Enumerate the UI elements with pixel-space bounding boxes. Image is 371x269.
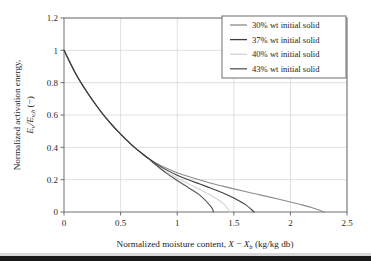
y-tick-label: 0.6	[47, 110, 59, 120]
y-tick-label: 0	[54, 207, 59, 217]
svg-text:Normalized moisture content, X: Normalized moisture content, X − Xb (kg/…	[117, 239, 294, 250]
x-tick-label: 2.5	[341, 218, 353, 228]
xlabel-units: (kg/kg db)	[253, 239, 294, 249]
x-tick-label: 1.5	[228, 218, 240, 228]
legend[interactable]: 30% wt initial solid37% wt initial solid…	[222, 16, 346, 78]
y-tick-label: 0.4	[47, 143, 59, 153]
xlabel-minus: −	[234, 239, 244, 249]
legend-label: 30% wt initial solid	[252, 20, 320, 30]
ylabel-units: (−)	[25, 96, 35, 110]
xlabel-text-main: Normalized moisture content,	[117, 239, 229, 249]
ylabel-slash-e: /E	[25, 117, 35, 127]
y-tick-label: 0.2	[47, 175, 58, 185]
activation-energy-chart: 00.511.522.5 00.20.40.60.811.2 Normalize…	[0, 0, 371, 269]
x-tick-label: 1	[175, 218, 180, 228]
y-tick-label: 1	[54, 46, 59, 56]
footer-bar	[0, 256, 371, 261]
x-tick-label: 0.5	[115, 218, 127, 228]
y-tick-label: 1.2	[47, 13, 58, 23]
y-tick-label: 0.8	[47, 78, 59, 88]
x-tick-label: 2	[288, 218, 293, 228]
figure-container: 00.511.522.5 00.20.40.60.811.2 Normalize…	[0, 0, 371, 269]
legend-label: 40% wt initial solid	[252, 49, 320, 59]
legend-label: 43% wt initial solid	[252, 64, 320, 74]
x-axis-title: Normalized moisture content, X − Xb (kg/…	[117, 239, 294, 250]
legend-label: 37% wt initial solid	[252, 35, 320, 45]
x-tick-label: 0	[62, 218, 67, 228]
ylabel-line-1: Normalized activation energy,	[12, 60, 22, 171]
